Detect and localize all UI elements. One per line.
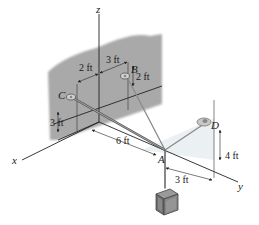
dim-b-height: 2 ft: [136, 71, 150, 82]
dim-origin-to-a: 6 ft: [116, 135, 130, 146]
y-axis: [99, 122, 238, 182]
crate: [156, 189, 178, 215]
eyebolt-B: [121, 73, 130, 79]
axis-label-y: y: [237, 180, 243, 192]
dim-z-to-b: 3 ft: [106, 54, 120, 65]
ceiling-mount-D: [197, 118, 211, 126]
dim-c-to-z: 2 ft: [79, 62, 93, 73]
dim-c-height: 3 ft: [50, 117, 64, 128]
axis-label-z: z: [95, 3, 101, 15]
point-label-A: A: [157, 153, 165, 165]
point-label-C: C: [58, 89, 66, 101]
eyebolt-C: [67, 94, 76, 100]
statics-diagram: z x y: [0, 0, 259, 225]
dim-a-to-d: 3 ft: [175, 174, 189, 185]
point-label-D: D: [210, 119, 219, 131]
axis-label-x: x: [11, 154, 17, 166]
dim-d-height: 4 ft: [225, 150, 239, 161]
